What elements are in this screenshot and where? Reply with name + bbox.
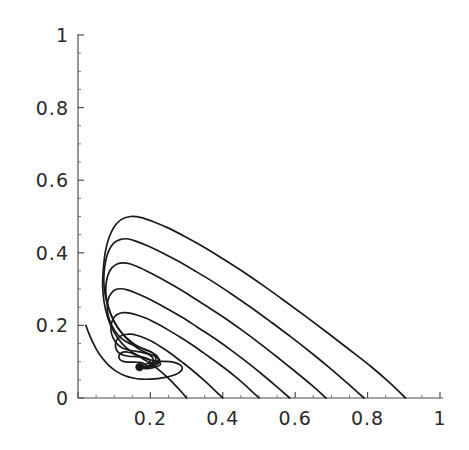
y-tick-label: 0.4 [36, 242, 69, 264]
trajectory-curve [104, 239, 364, 398]
phase-portrait-figure: 0.20.40.60.8100.20.40.60.81 [0, 0, 469, 450]
trajectory-curve [103, 216, 406, 398]
x-tick-label: 0.8 [351, 407, 384, 429]
x-tick-label: 0.4 [206, 407, 239, 429]
y-tick-label: 1 [56, 24, 69, 46]
y-tick-label: 0.6 [36, 169, 69, 191]
x-tick-label: 0.6 [279, 407, 312, 429]
y-tick-label: 0.2 [36, 314, 69, 336]
x-tick-label: 1 [433, 407, 446, 429]
y-tick-label: 0.8 [36, 97, 69, 119]
spiral-focus-point [135, 363, 143, 371]
x-tick-label: 0.2 [134, 407, 167, 429]
plot-canvas: 0.20.40.60.8100.20.40.60.81 [0, 0, 469, 450]
y-tick-label: 0 [56, 387, 69, 409]
